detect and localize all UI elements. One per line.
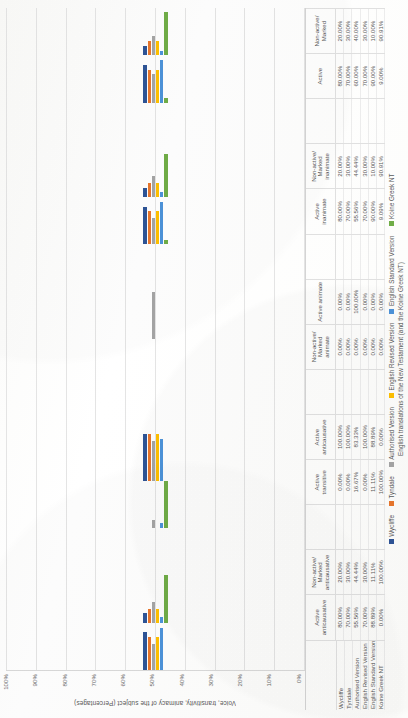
legend-label: English Revised Version	[388, 323, 395, 391]
legend-item[interactable]: Authorised Version	[388, 407, 395, 467]
bar	[152, 520, 156, 528]
data-table-column: Non-active/ Marked inanimate20.00%30.00%…	[306, 143, 385, 188]
data-table-cell	[361, 505, 369, 549]
bar	[156, 609, 160, 623]
bar	[148, 609, 152, 623]
data-table-cell	[377, 370, 385, 414]
data-table-column: Active anticausative80.00%70.00%55.56%70…	[306, 594, 385, 639]
data-table-cell: 0.00%	[377, 415, 385, 459]
data-table-cell: 100.00%	[344, 415, 352, 459]
bar-group	[6, 386, 305, 433]
data-table-cell	[352, 505, 360, 549]
data-table-cell: 55.56%	[352, 189, 360, 233]
data-table-column: Non-active/ Marked anticausative20.00%30…	[306, 549, 385, 594]
legend-item[interactable]: English Standard Version	[388, 235, 395, 313]
legend-item[interactable]: Tyndale	[388, 476, 395, 506]
bar	[164, 12, 168, 55]
data-table-cell	[344, 505, 352, 549]
y-axis-tick: 100%	[3, 674, 9, 690]
data-table-cell	[336, 99, 344, 143]
data-table-cell	[369, 235, 377, 279]
y-axis-tick: 80%	[62, 674, 68, 686]
data-table-cell: 30.00%	[361, 9, 369, 53]
data-table-cell	[336, 370, 344, 414]
data-table-cell: 0.00%	[344, 325, 352, 369]
category-label: Active animate	[306, 280, 336, 324]
bar-group	[6, 434, 305, 481]
bar	[152, 602, 156, 623]
data-table-cell: 11.11%	[369, 460, 377, 504]
bar	[164, 98, 168, 102]
data-table-cell	[361, 99, 369, 143]
data-table-cell: 30.00%	[344, 9, 352, 53]
chart: Voice, transitivity, animacy of the subj…	[0, 0, 408, 718]
data-table-cell: 80.00%	[336, 595, 344, 639]
data-table-cell: 0.00%	[336, 280, 344, 324]
data-table-column	[306, 504, 385, 549]
legend-swatch-icon	[389, 393, 394, 398]
data-table-cell	[377, 99, 385, 143]
y-axis-tick: 20%	[237, 674, 243, 686]
y-axis-tick: 30%	[208, 674, 214, 686]
data-table-cell: 0.00%	[336, 325, 344, 369]
bar	[143, 188, 147, 197]
y-axis-tick: 60%	[120, 674, 126, 686]
series-name: English Standard Version	[369, 641, 376, 709]
bar	[152, 292, 156, 339]
data-table-row-label: English Standard Version	[369, 641, 377, 710]
legend-swatch-icon	[389, 309, 394, 314]
data-table-cell	[352, 99, 360, 143]
legend-item[interactable]: Koine Greek NT	[388, 174, 395, 227]
legend-swatch-icon	[389, 539, 394, 544]
data-table-cell: 10.00%	[369, 9, 377, 53]
bar-group	[6, 575, 305, 622]
data-table-cell	[344, 370, 352, 414]
data-table-column: Active anticausative100.00%100.00%83.33%…	[306, 414, 385, 459]
data-table-cell: 80.00%	[336, 54, 344, 98]
data-table-cell: 0.00%	[352, 325, 360, 369]
legend-item[interactable]: Wycliffe	[388, 515, 395, 544]
data-table-cell: 100.00%	[377, 460, 385, 504]
data-table-cell	[361, 235, 369, 279]
legend-label: Tyndale	[388, 476, 395, 498]
category-label: Active anticausative	[306, 415, 336, 459]
y-axis-tick: 40%	[179, 674, 185, 686]
y-axis-tick: 50%	[149, 674, 155, 686]
chart-body: Voice, transitivity, animacy of the subj…	[6, 8, 305, 710]
bar	[160, 628, 164, 670]
data-table-cell: 88.89%	[369, 415, 377, 459]
bar	[160, 439, 164, 481]
data-table-cell: 0.00%	[361, 460, 369, 504]
data-table-cell: 30.00%	[344, 144, 352, 188]
legend-item[interactable]: English Revised Version	[388, 323, 395, 398]
category-label: Active inanimate	[306, 189, 336, 233]
data-table-cell: 0.00%	[377, 595, 385, 639]
legend-swatch-icon	[389, 462, 394, 467]
data-table-cell: 0.00%	[344, 280, 352, 324]
series-name: Wycliffe	[337, 688, 344, 709]
bar	[152, 176, 156, 197]
data-table-cell: 70.00%	[344, 595, 352, 639]
bar	[156, 637, 160, 670]
bar	[143, 207, 147, 245]
data-table-cell: 70.00%	[361, 54, 369, 98]
bar	[148, 637, 152, 670]
bar	[152, 441, 156, 480]
data-table-row-label: English Revised Version	[361, 641, 369, 710]
category-label: Non-active/ Marked	[306, 9, 336, 53]
y-axis-tick: 70%	[91, 674, 97, 686]
bar	[164, 240, 168, 244]
bar-group	[6, 528, 305, 575]
data-table-row-label: Wycliffe	[337, 641, 345, 710]
data-table-row-label: Tyndale	[345, 641, 353, 710]
data-table-column	[306, 98, 385, 143]
series-name: Koine Greek NT	[377, 665, 384, 709]
data-table-cell: 0.00%	[369, 325, 377, 369]
category-label: Non-active/ Marked anticausative	[306, 550, 336, 594]
data-table-cell: 30.00%	[361, 144, 369, 188]
bar-group	[6, 481, 305, 528]
y-axis-title: Voice, transitivity, animacy of the subj…	[6, 697, 305, 710]
data-table-column: Active animate0.00%0.00%100.00%0.00%0.00…	[306, 279, 385, 324]
legend-swatch-icon	[389, 501, 394, 506]
plot-area	[6, 8, 305, 671]
